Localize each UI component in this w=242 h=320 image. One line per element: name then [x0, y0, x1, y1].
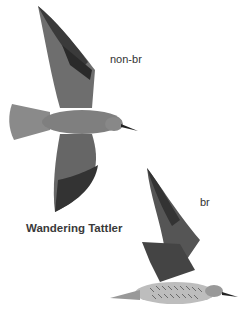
- breeding-bird-illustration: [110, 168, 238, 304]
- field-guide-plate: non-br br Wandering Tattler: [0, 0, 242, 320]
- non-breeding-bird-illustration: [9, 6, 138, 212]
- bird-illustrations: [0, 0, 242, 320]
- breeding-label: br: [200, 196, 210, 208]
- species-name: Wandering Tattler: [26, 222, 122, 234]
- non-breeding-label: non-br: [110, 53, 142, 65]
